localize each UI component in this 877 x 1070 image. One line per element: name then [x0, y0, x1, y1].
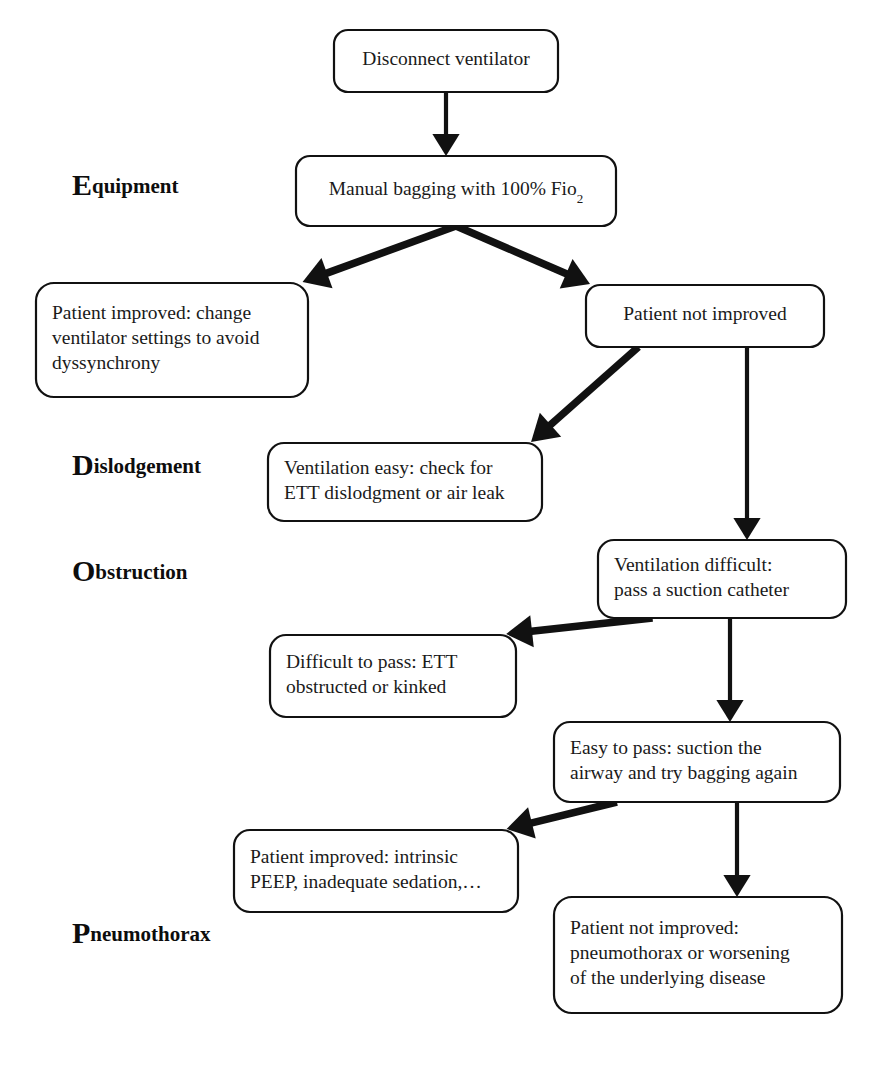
node-ventilation-easy[interactable]: Ventilation easy: check forETT dislodgme…: [268, 443, 542, 521]
node-text-line: Easy to pass: suction the: [570, 737, 762, 758]
stage-label-initial: E: [72, 168, 92, 201]
stage-label-pneumothorax: Pneumothorax: [72, 916, 211, 949]
stage-label-initial: O: [72, 554, 95, 587]
stage-label-rest: neumothorax: [90, 922, 211, 946]
node-patient-not-improved-pneumothorax[interactable]: Patient not improved:pneumothorax or wor…: [554, 897, 842, 1013]
node-text-line: Difficult to pass: ETT: [286, 651, 457, 672]
edge-patient-not-improved-to-ventilation-easy: [531, 347, 638, 442]
node-patient-improved-change-settings[interactable]: Patient improved: changeventilator setti…: [36, 283, 308, 397]
node-text-line: pneumothorax or worsening: [570, 942, 790, 963]
node-text-line: pass a suction catheter: [614, 579, 789, 600]
node-text-line: obstructed or kinked: [286, 676, 447, 697]
edge-easy-to-pass-to-patient-improved-intrinsic-peep: [507, 802, 617, 838]
stage-label-rest: islodgement: [94, 454, 201, 478]
stage-label-obstruction: Obstruction: [72, 554, 188, 587]
edge-patient-not-improved-to-ventilation-difficult: [733, 347, 760, 540]
node-manual-bagging[interactable]: Manual bagging with 100% Fio2: [296, 156, 616, 226]
node-text-line: Disconnect ventilator: [362, 48, 530, 69]
node-text-line: airway and try bagging again: [570, 762, 798, 783]
edge-manual-bagging-to-patient-improved-change-settings: [303, 226, 456, 288]
node-text-line: Ventilation difficult:: [614, 554, 772, 575]
node-text-line: Patient not improved: [623, 303, 787, 324]
flowchart-canvas: Disconnect ventilatorManual bagging with…: [0, 0, 877, 1070]
node-text-line: Patient improved: intrinsic: [250, 846, 458, 867]
flowchart-svg: Disconnect ventilatorManual bagging with…: [0, 0, 877, 1070]
edge-manual-bagging-to-patient-not-improved: [456, 226, 590, 288]
node-text-line: ventilator settings to avoid: [52, 327, 260, 348]
stage-label-initial: D: [72, 448, 94, 481]
stage-label-rest: bstruction: [95, 560, 187, 584]
node-difficult-to-pass[interactable]: Difficult to pass: ETTobstructed or kink…: [270, 635, 516, 717]
stage-label-rest: quipment: [92, 174, 178, 198]
edge-easy-to-pass-to-patient-not-improved-pneumothorax: [723, 802, 750, 897]
node-text-line: Ventilation easy: check for: [284, 457, 493, 478]
stage-label-equipment: Equipment: [72, 168, 178, 201]
edge-ventilation-difficult-to-easy-to-pass: [716, 618, 743, 722]
node-text-line: Patient not improved:: [570, 917, 739, 938]
node-text-line: Patient improved: change: [52, 302, 251, 323]
edge-ventilation-difficult-to-difficult-to-pass: [506, 615, 652, 647]
edge-disconnect-ventilator-to-manual-bagging: [432, 92, 459, 156]
node-patient-improved-intrinsic-peep[interactable]: Patient improved: intrinsicPEEP, inadequ…: [234, 830, 518, 912]
node-text-line: dyssynchrony: [52, 352, 161, 373]
node-easy-to-pass[interactable]: Easy to pass: suction theairway and try …: [554, 722, 840, 802]
node-disconnect-ventilator[interactable]: Disconnect ventilator: [334, 30, 558, 92]
stage-label-initial: P: [72, 916, 90, 949]
node-text-line: of the underlying disease: [570, 967, 766, 988]
node-text-line: PEEP, inadequate sedation,…: [250, 871, 482, 892]
stage-label-dislodgement: Dislodgement: [72, 448, 201, 481]
node-ventilation-difficult[interactable]: Ventilation difficult:pass a suction cat…: [598, 540, 846, 618]
node-patient-not-improved[interactable]: Patient not improved: [586, 285, 824, 347]
node-text-line: ETT dislodgment or air leak: [284, 482, 505, 503]
